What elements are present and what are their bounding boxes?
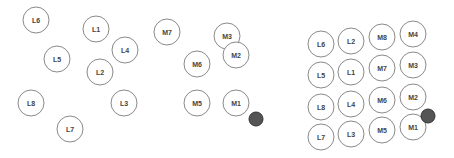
- grid-layout-panel: L6L5L8L7L2L1L4L3M8M7M6M5M4M3M2M1: [308, 21, 435, 150]
- node-l7-scattered: L7: [57, 116, 83, 142]
- node-m6-grid: M6: [369, 87, 395, 113]
- node-m2-scattered: M2: [223, 42, 249, 68]
- node-m8-grid: M8: [369, 24, 395, 50]
- node-l5-grid: L5: [308, 62, 334, 88]
- node-label: L6: [317, 41, 325, 48]
- position-marker: [421, 109, 435, 123]
- node-l8-grid: L8: [308, 94, 334, 120]
- node-label: L8: [27, 100, 35, 107]
- node-m5-scattered: M5: [184, 90, 210, 116]
- node-label: L5: [53, 56, 61, 63]
- node-m7-scattered: M7: [154, 19, 180, 45]
- node-label: L4: [347, 101, 355, 108]
- node-label: M2: [408, 94, 418, 101]
- node-label: L1: [347, 69, 355, 76]
- node-l3-grid: L3: [338, 121, 364, 147]
- node-label: L3: [120, 100, 128, 107]
- node-l5-scattered: L5: [44, 46, 70, 72]
- node-label: M5: [377, 127, 387, 134]
- node-m4-grid: M4: [400, 21, 426, 47]
- position-marker: [249, 112, 263, 126]
- node-l8-scattered: L8: [18, 90, 44, 116]
- node-label: M3: [408, 62, 418, 69]
- node-m1-scattered: M1: [223, 90, 249, 116]
- node-l4-grid: L4: [338, 91, 364, 117]
- node-label: L7: [317, 134, 325, 141]
- node-m3-grid: M3: [400, 52, 426, 78]
- node-m5-grid: M5: [369, 117, 395, 143]
- scattered-layout-panel: L6L1L4L5L2L8L3L7M7M3M2M6M5M1: [18, 7, 263, 142]
- node-l3-scattered: L3: [111, 90, 137, 116]
- node-label: L3: [347, 131, 355, 138]
- node-label: M8: [377, 34, 387, 41]
- node-label: L8: [317, 104, 325, 111]
- node-l6-scattered: L6: [23, 7, 49, 33]
- node-label: M4: [408, 31, 418, 38]
- node-l1-scattered: L1: [83, 16, 109, 42]
- node-l2-grid: L2: [338, 28, 364, 54]
- node-label: L2: [96, 69, 104, 76]
- node-m7-grid: M7: [369, 55, 395, 81]
- node-l2-scattered: L2: [87, 59, 113, 85]
- node-label: L5: [317, 72, 325, 79]
- node-l6-grid: L6: [308, 31, 334, 57]
- node-l7-grid: L7: [308, 124, 334, 150]
- node-label: M7: [377, 65, 387, 72]
- node-label: M1: [231, 100, 241, 107]
- node-label: L2: [347, 38, 355, 45]
- node-label: M1: [408, 124, 418, 131]
- node-label: M5: [192, 100, 202, 107]
- node-label: M2: [231, 52, 241, 59]
- node-label: M6: [192, 61, 202, 68]
- node-label: L7: [66, 126, 74, 133]
- node-label: M3: [222, 33, 232, 40]
- node-label: L4: [121, 47, 129, 54]
- node-label: L6: [32, 17, 40, 24]
- diagram-canvas: L6L1L4L5L2L8L3L7M7M3M2M6M5M1 L6L5L8L7L2L…: [0, 0, 454, 158]
- node-m6-scattered: M6: [184, 51, 210, 77]
- node-m2-grid: M2: [400, 84, 426, 110]
- node-label: M7: [162, 29, 172, 36]
- node-l1-grid: L1: [338, 59, 364, 85]
- node-l4-scattered: L4: [112, 37, 138, 63]
- node-label: L1: [92, 26, 100, 33]
- node-label: M6: [377, 97, 387, 104]
